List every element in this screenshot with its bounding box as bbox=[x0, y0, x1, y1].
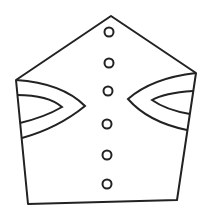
button-circle bbox=[103, 120, 112, 129]
button-circle bbox=[105, 28, 114, 37]
button-circle bbox=[104, 87, 113, 96]
button-circle bbox=[103, 151, 112, 160]
garment-drawing bbox=[0, 0, 211, 208]
button-circle bbox=[105, 59, 114, 68]
drawing-canvas bbox=[0, 0, 211, 208]
pentagon-outline bbox=[16, 16, 196, 204]
button-circle bbox=[103, 180, 112, 189]
